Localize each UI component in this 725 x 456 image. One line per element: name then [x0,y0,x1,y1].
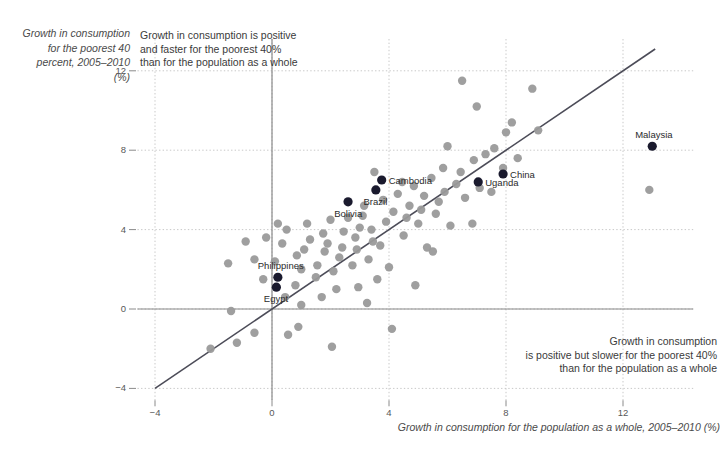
scatter-chart: Growth in consumption for the poorest 40… [0,0,725,456]
y-tick-label: −4 [100,382,126,393]
data-point [461,194,469,202]
data-point-highlighted [273,273,282,282]
point-label-cambodia: Cambodia [389,175,432,186]
data-point [370,168,378,176]
data-point [440,188,448,196]
point-label-egypt: Egypt [264,293,288,304]
point-label-bolivia: Bolivia [334,208,362,219]
data-point [332,285,340,293]
data-point [490,144,498,152]
data-point [233,339,241,347]
data-point [348,261,356,269]
data-point [319,229,327,237]
data-point [224,259,232,267]
x-tick-label: −4 [142,407,168,418]
data-point [508,118,516,126]
data-point [458,77,466,85]
data-point-highlighted [474,177,483,186]
x-tick-label: 0 [259,407,285,418]
annotation-above-line-1: Growth in consumption is positive [140,29,390,43]
data-point [282,225,290,233]
data-point [351,233,359,241]
data-point [373,275,381,283]
data-point [338,243,346,251]
data-point [363,299,371,307]
y-tick-label: 8 [100,144,126,155]
data-point [402,213,410,221]
data-point [399,231,407,239]
data-point [439,164,447,172]
data-point [369,237,377,245]
data-point [364,255,372,263]
data-point [274,219,282,227]
data-point [514,154,522,162]
data-point [354,283,362,291]
data-point [382,217,390,225]
data-point [278,239,286,247]
data-point [456,168,464,176]
data-point [303,219,311,227]
annotation-above-line-2: and faster for the poorest 40% [140,43,390,57]
data-point [259,275,267,283]
data-point [411,281,419,289]
data-point [262,233,270,241]
data-point [429,247,437,255]
data-point [206,345,214,353]
data-point [318,293,326,301]
data-point [385,263,393,271]
data-point [417,206,425,214]
data-point [293,251,301,259]
data-point [376,241,384,249]
data-point-highlighted [272,283,281,292]
data-point [443,142,451,150]
point-label-malaysia: Malaysia [635,129,673,140]
data-point [294,323,302,331]
data-point [328,343,336,351]
data-point [452,180,460,188]
point-label-brazil: Brazil [364,196,388,207]
annotation-below-line-3: than for the population as a whole [445,362,717,376]
data-points [206,77,653,353]
y-tick-label: 0 [100,303,126,314]
data-point [313,261,321,269]
point-label-china: China [510,169,535,180]
data-point [312,273,320,281]
y-tick-label: 4 [100,224,126,235]
data-point [339,227,347,235]
data-point [323,239,331,247]
data-point [420,192,428,200]
data-point [356,223,364,231]
annotation-below-line-1: Growth in consumption [445,335,717,349]
x-tick-label: 12 [610,407,636,418]
annotation-below-line-2: is positive but slower for the poorest 4… [445,349,717,363]
y-axis-title-line-2: for the poorest 40 [0,41,130,56]
data-point [335,253,343,261]
point-label-philippines: Philippines [258,260,304,271]
data-point [388,325,396,333]
data-point [405,202,413,210]
data-point [470,156,478,164]
annotation-above-line-3: than for the population as a whole [140,56,390,70]
data-point [502,128,510,136]
data-point [432,210,440,218]
x-tick-label: 8 [493,407,519,418]
y-tick-label: 12 [100,65,126,76]
data-point [353,245,361,253]
data-point [297,301,305,309]
data-point [487,188,495,196]
data-point [291,281,299,289]
data-point [300,245,308,253]
data-point [481,150,489,158]
data-point [367,225,375,233]
data-point-highlighted [377,175,386,184]
data-point [320,247,328,255]
annotation-above-line: Growth in consumption is positive and fa… [140,29,390,70]
data-point [446,221,454,229]
data-point-highlighted [343,197,352,206]
data-point [435,198,443,206]
data-point-highlighted [648,142,657,151]
data-point [227,307,235,315]
data-point [468,219,476,227]
annotation-below-line: Growth in consumption is positive but sl… [445,335,717,376]
data-point [414,219,422,227]
